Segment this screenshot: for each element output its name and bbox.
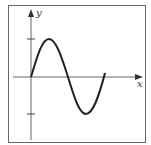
y-axis-label: y	[35, 7, 42, 18]
x-axis-label: x	[137, 78, 143, 89]
plot-frame	[9, 6, 146, 143]
sine-graph: y x	[0, 0, 151, 145]
y-axis-arrow-icon	[28, 9, 34, 17]
